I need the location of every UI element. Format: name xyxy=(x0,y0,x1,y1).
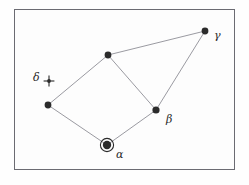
edge-layer xyxy=(48,31,205,145)
node-left-vertex[interactable] xyxy=(45,102,52,109)
node-dot-left-vertex xyxy=(45,102,52,109)
node-dot-gamma xyxy=(202,28,209,35)
node-top-vertex[interactable] xyxy=(105,52,112,59)
star-map-svg xyxy=(0,0,249,185)
star-label-alpha: α xyxy=(116,149,123,160)
star-label-delta: δ xyxy=(33,72,40,83)
node-dot-top-vertex xyxy=(105,52,112,59)
node-delta[interactable] xyxy=(44,76,55,87)
node-layer xyxy=(44,28,209,152)
edge-top-gamma xyxy=(108,31,205,55)
edge-alpha-beta xyxy=(107,110,156,145)
edge-top-beta xyxy=(108,55,156,110)
node-alpha[interactable] xyxy=(100,138,113,151)
edge-beta-gamma xyxy=(156,31,205,110)
edge-left-alpha xyxy=(48,105,107,145)
node-beta[interactable] xyxy=(152,106,159,113)
node-dot-delta xyxy=(47,79,51,83)
edge-top-left xyxy=(48,55,108,105)
diagram-canvas: αβγδ xyxy=(0,0,249,185)
node-dot-alpha xyxy=(103,141,111,149)
node-gamma[interactable] xyxy=(202,28,209,35)
node-dot-beta xyxy=(152,106,159,113)
star-label-gamma: γ xyxy=(214,30,221,41)
star-label-beta: β xyxy=(166,114,172,125)
